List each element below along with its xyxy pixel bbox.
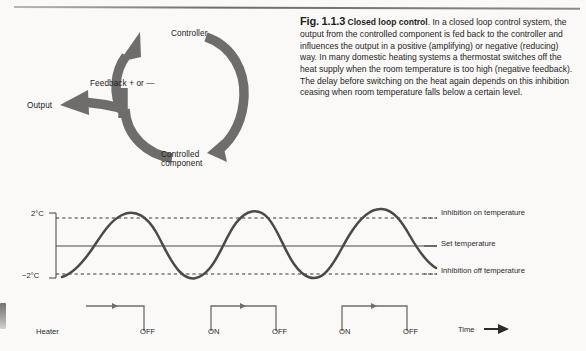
figure-title: Closed loop control [347,17,427,27]
y-tick-label-upper: 2°C [31,209,44,218]
figure-caption: Fig. 1.1.3 Closed loop control. In a clo… [300,14,574,99]
output-arrow [60,90,120,115]
annotation-set-temperature: Set temperature [441,239,495,248]
heater-state-on-2: ON [339,327,350,336]
y-axis-bracket [49,213,56,278]
room-temperature-curve [62,209,436,278]
time-axis-arrow [484,324,509,334]
controlled-line-1: Controlled [161,150,199,159]
figure-body: . In a closed loop control system, the o… [300,17,572,97]
heater-state-on-1: ON [208,327,219,336]
figure-number: Fig. 1.1.3 [300,15,345,27]
figure-page: Controller Feedback + or — Output Contro… [0,0,586,351]
diagram-label-output: Output [27,101,52,110]
controller-to-component-arrow [206,37,244,162]
heater-state-off-3: OFF [403,327,418,336]
diagram-label-feedback: Feedback + or — [90,79,155,88]
annotation-inhibition-on: Inhibition on temperature [441,208,525,217]
time-axis-label: Time [458,325,475,334]
heater-timeline [86,306,407,331]
heater-label: Heater [36,327,59,336]
heater-state-off-2: OFF [272,327,287,336]
y-tick-label-lower: −2°C [22,271,39,280]
diagram-label-controlled-component: Controlled component [161,150,202,169]
diagram-label-controller: Controller [171,29,208,38]
closed-loop-diagram: Controller Feedback + or — Output Contro… [0,10,296,185]
annotation-inhibition-off: Inhibition off temperature [441,266,525,275]
controlled-line-2: component [161,159,202,168]
heater-state-off-1: OFF [140,327,155,336]
heater-direction-ticks [112,303,377,309]
loop-diagram-svg [0,10,296,185]
